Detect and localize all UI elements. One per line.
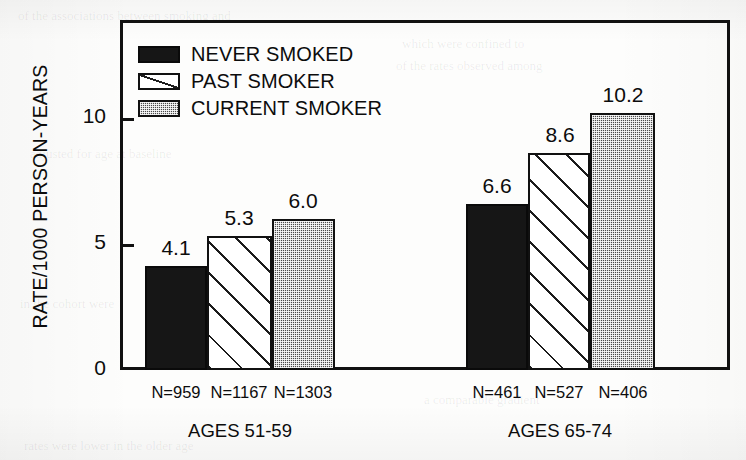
chart-legend: NEVER SMOKED PAST SMOKER CURRENT SMOKER: [138, 42, 382, 123]
group-label-ages-65-74: AGES 65-74: [460, 420, 660, 442]
y-axis-title: RATE/1000 PERSON-YEARS: [29, 0, 52, 397]
bar-value-current-smoker-ages-51-59: 6.0: [258, 189, 348, 213]
legend-label-never-smoked: NEVER SMOKED: [191, 43, 353, 66]
bar-current-smoker-ages-51-59: [272, 219, 335, 370]
y-tick-label-5: 5: [60, 230, 106, 254]
legend-item-past-smoker: PAST SMOKER: [138, 69, 382, 94]
bar-chart-figure: of the associations between smoking and …: [0, 0, 746, 460]
legend-swatch-hatch-icon: [138, 73, 180, 90]
legend-label-past-smoker: PAST SMOKER: [191, 70, 335, 93]
y-tick-mark-10: [120, 118, 134, 121]
bar-value-past-smoker-ages-65-74: 8.6: [515, 123, 605, 147]
bar-never-smoked-ages-51-59: [145, 266, 207, 370]
y-tick-label-10: 10: [60, 104, 106, 128]
bar-value-never-smoked-ages-51-59: 4.1: [131, 236, 221, 260]
bar-value-current-smoker-ages-65-74: 10.2: [578, 83, 668, 107]
n-label-current-smoker-ages-51-59: N=1303: [258, 383, 348, 402]
n-label-current-smoker-ages-65-74: N=406: [578, 383, 668, 402]
bar-current-smoker-ages-65-74: [590, 113, 655, 370]
bar-value-never-smoked-ages-65-74: 6.6: [452, 174, 542, 198]
y-tick-label-0: 0: [60, 356, 106, 380]
group-label-ages-51-59: AGES 51-59: [140, 420, 340, 442]
legend-label-current-smoker: CURRENT SMOKER: [191, 97, 382, 120]
legend-item-current-smoker: CURRENT SMOKER: [138, 96, 382, 121]
legend-swatch-black-icon: [138, 46, 180, 63]
legend-item-never-smoked: NEVER SMOKED: [138, 42, 382, 67]
bar-never-smoked-ages-65-74: [466, 204, 528, 370]
legend-swatch-dots-icon: [138, 100, 180, 117]
